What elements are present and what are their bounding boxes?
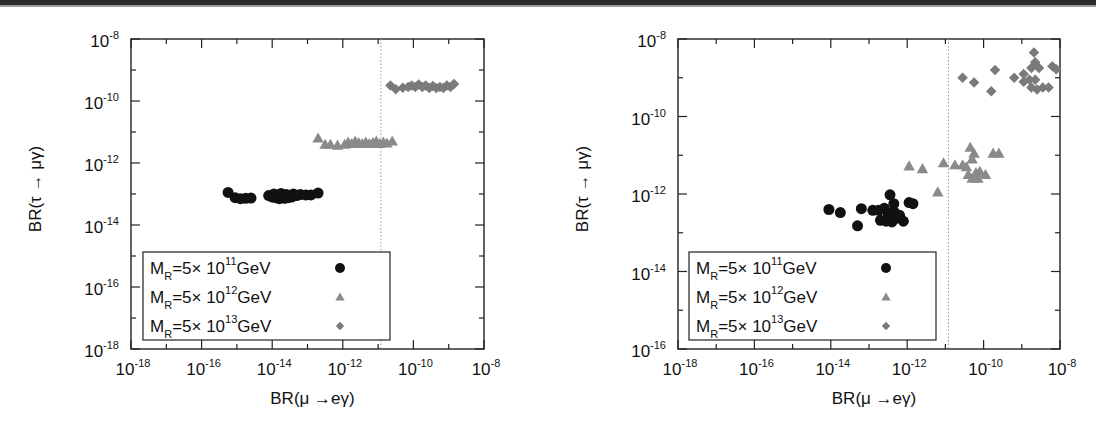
x-tick-label: 10-8	[472, 357, 501, 379]
x-tick-label: 10-16	[186, 357, 221, 379]
legend-marker-circle-icon	[881, 263, 891, 273]
data-point	[957, 73, 968, 84]
data-point	[313, 188, 324, 199]
series-diamond	[385, 79, 459, 95]
data-point	[856, 203, 867, 214]
data-point	[938, 157, 950, 167]
y-tick-label: 10-16	[631, 339, 666, 361]
series-triangle	[903, 142, 1004, 197]
data-point	[932, 186, 944, 196]
series-diamond	[957, 47, 1061, 96]
series-triangle	[312, 132, 398, 149]
scatter-plot-left: 10-1810-1610-1410-1210-1010-810-810-1010…	[0, 0, 548, 444]
legend: MR=5× 1011GeVMR=5× 1012GeVMR=5× 1013GeV	[143, 252, 390, 340]
y-axis-title: BR(τ → μγ)	[26, 146, 45, 232]
data-point	[852, 220, 863, 231]
chart-panel-right: 10-1810-1610-1410-1210-1010-810-810-1010…	[548, 0, 1096, 444]
series-circle	[223, 187, 324, 204]
y-tick-label: 10-16	[84, 277, 119, 299]
legend-marker-circle-icon	[335, 263, 345, 273]
y-tick-label: 10-18	[84, 339, 119, 361]
x-tick-label: 10-18	[663, 357, 698, 379]
x-tick-label: 10-12	[327, 357, 362, 379]
data-point	[917, 163, 929, 173]
x-tick-label: 10-16	[739, 357, 774, 379]
data-point	[246, 193, 257, 204]
x-axis-title: BR(μ →eγ)	[832, 389, 916, 408]
y-tick-label: 10-12	[631, 184, 666, 206]
data-point	[312, 132, 324, 142]
x-tick-label: 10-10	[968, 357, 1003, 379]
x-tick-label: 10-10	[398, 357, 433, 379]
y-tick-label: 10-8	[637, 29, 666, 51]
x-tick-label: 10-12	[892, 357, 927, 379]
data-point	[907, 198, 918, 209]
data-point	[894, 210, 905, 221]
scatter-plot-right: 10-1810-1610-1410-1210-1010-810-810-1010…	[548, 0, 1096, 444]
data-point	[1029, 47, 1040, 58]
data-point	[969, 77, 980, 88]
data-point	[1009, 73, 1020, 84]
x-tick-label: 10-14	[257, 357, 292, 379]
data-point	[883, 208, 894, 219]
y-tick-label: 10-12	[84, 153, 119, 175]
data-point	[990, 65, 1001, 76]
data-point	[986, 86, 997, 97]
y-axis-title: BR(τ → μγ)	[573, 146, 592, 232]
data-point	[835, 207, 846, 218]
x-axis-title: BR(μ →eγ)	[270, 389, 354, 408]
x-tick-label: 10-18	[116, 357, 151, 379]
x-tick-label: 10-8	[1048, 357, 1077, 379]
data-point	[1043, 82, 1054, 93]
data-point	[823, 204, 834, 215]
x-tick-label: 10-14	[815, 357, 850, 379]
legend: MR=5× 1011GeVMR=5× 1012GeVMR=5× 1013GeV	[689, 252, 936, 340]
y-tick-label: 10-10	[631, 107, 666, 129]
y-tick-label: 10-14	[631, 262, 666, 284]
data-point	[903, 160, 915, 170]
chart-panel-left: 10-1810-1610-1410-1210-1010-810-810-1010…	[0, 0, 548, 444]
series-circle	[823, 189, 918, 231]
y-tick-label: 10-10	[84, 91, 119, 113]
y-tick-label: 10-14	[84, 215, 119, 237]
y-tick-label: 10-8	[90, 29, 119, 51]
